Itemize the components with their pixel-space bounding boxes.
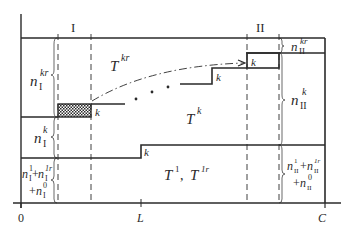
axis-label-origin: 0 bbox=[18, 211, 24, 225]
right-brace-middle bbox=[279, 53, 285, 145]
svg-text:n: n bbox=[291, 92, 299, 108]
right-brace-top bbox=[279, 38, 284, 53]
label-n-I-k: n I k bbox=[34, 124, 48, 149]
svg-text:0: 0 bbox=[43, 181, 47, 190]
svg-text:T: T bbox=[164, 167, 174, 183]
ellipsis-dot bbox=[135, 98, 138, 101]
svg-text:II: II bbox=[300, 100, 307, 111]
svg-text:n: n bbox=[38, 167, 44, 181]
svg-text:II: II bbox=[314, 167, 319, 175]
svg-text:T: T bbox=[186, 111, 196, 127]
svg-text:kr: kr bbox=[300, 36, 308, 46]
svg-text:+: + bbox=[293, 176, 300, 190]
svg-text:I: I bbox=[43, 191, 46, 200]
label-n-I-1-n-I-1r-n-I-0: n I 1 + n I 1r + n I 0 bbox=[22, 164, 53, 200]
svg-text:T: T bbox=[110, 58, 120, 74]
svg-text:II: II bbox=[299, 46, 305, 56]
svg-text:1r: 1r bbox=[201, 164, 210, 174]
svg-text:1: 1 bbox=[175, 164, 180, 174]
svg-text:,: , bbox=[180, 168, 184, 183]
ellipsis-dot bbox=[167, 86, 170, 89]
svg-text:I: I bbox=[43, 138, 46, 149]
region-I-label: I bbox=[71, 20, 75, 35]
svg-text:k: k bbox=[43, 124, 48, 135]
left-brace-middle bbox=[51, 117, 57, 158]
ellipsis-dot bbox=[151, 91, 154, 94]
label-n-II-k: n II k bbox=[291, 86, 307, 111]
svg-text:kr: kr bbox=[121, 52, 129, 63]
svg-text:1: 1 bbox=[294, 157, 298, 165]
svg-text:k: k bbox=[302, 86, 307, 97]
svg-text:II: II bbox=[294, 167, 299, 175]
svg-text:kr: kr bbox=[40, 67, 48, 78]
area-label-T-k: T k bbox=[186, 105, 202, 127]
svg-text:0: 0 bbox=[308, 173, 312, 182]
svg-text:n: n bbox=[291, 39, 298, 54]
right-brace-bottom bbox=[279, 145, 285, 203]
svg-text:+: + bbox=[300, 159, 307, 173]
axis-label-L: L bbox=[136, 211, 144, 225]
diagram-canvas: 0 L C I II k k k k T kr T k T 1 , T 1r bbox=[0, 0, 351, 235]
step-label-k-hatched: k bbox=[95, 106, 101, 118]
svg-text:II: II bbox=[307, 184, 312, 192]
svg-text:T: T bbox=[190, 167, 200, 183]
upper-step-boundary bbox=[180, 68, 247, 84]
svg-text:1r: 1r bbox=[314, 157, 321, 165]
axis-label-C: C bbox=[318, 211, 327, 225]
svg-text:n: n bbox=[30, 73, 38, 89]
svg-text:+: + bbox=[29, 184, 36, 198]
area-label-T-1-T-1r: T 1 , T 1r bbox=[164, 164, 210, 183]
svg-text:n: n bbox=[307, 159, 313, 173]
svg-text:1r: 1r bbox=[45, 164, 53, 173]
label-n-II-1-n-II-1r-n-II-0: n II 1 + n II 1r + n II 0 bbox=[287, 157, 321, 192]
svg-text:n: n bbox=[287, 159, 293, 173]
label-n-I-kr: n I kr bbox=[30, 67, 48, 92]
step-label-k-region-II: k bbox=[251, 56, 257, 68]
left-brace-top bbox=[51, 38, 57, 117]
svg-text:n: n bbox=[36, 184, 42, 198]
step-label-k-upper: k bbox=[216, 71, 222, 83]
svg-text:I: I bbox=[39, 81, 42, 92]
svg-text:k: k bbox=[197, 105, 202, 116]
step-label-k-bottom: k bbox=[144, 146, 150, 158]
hatched-block bbox=[58, 104, 91, 117]
area-label-T-kr: T kr bbox=[110, 52, 129, 74]
region-II-label: II bbox=[256, 20, 265, 35]
svg-text:n: n bbox=[300, 176, 306, 190]
svg-text:n: n bbox=[34, 130, 42, 146]
svg-text:n: n bbox=[22, 167, 28, 181]
